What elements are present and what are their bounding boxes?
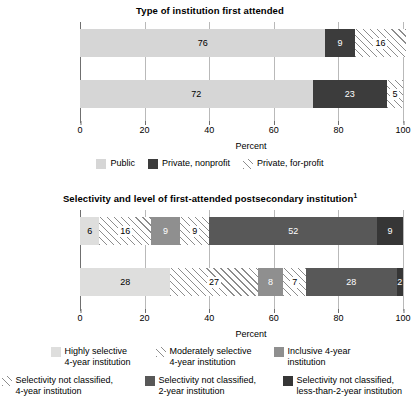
- top-legend-item-private-nonprofit: Private, nonprofit: [148, 158, 230, 169]
- top-x-axis-caption: Percent: [41, 141, 420, 151]
- bottom-segment-inclusive-row1: 9: [151, 217, 180, 245]
- top-chart-plot-area: First-generation college students 76 9 1…: [0, 22, 420, 123]
- bottom-value-inclusive-row2: 8: [268, 277, 273, 287]
- top-tick-60: 60: [269, 125, 279, 135]
- top-legend-item-private-forprofit: Private, for-profit: [243, 158, 324, 169]
- top-tick-100: 100: [395, 125, 410, 135]
- top-legend-label-private-nonprofit: Private, nonprofit: [162, 158, 230, 169]
- bottom-legend-row-2: Selectivity not classified, 4-year insti…: [0, 375, 420, 396]
- bottom-value-nc2-row2: 28: [346, 277, 356, 287]
- bottom-segment-nc-4year-row2: 7: [283, 268, 306, 296]
- chart-panel-selectivity-and-level: Selectivity and level of first-attended …: [0, 182, 420, 418]
- bottom-tick-20: 20: [140, 313, 150, 323]
- bottom-tick-100: 100: [395, 313, 410, 323]
- bottom-value-nc4-row2: 7: [290, 277, 299, 288]
- bottom-x-axis-ticks: 0 20 40 60 80 100: [0, 313, 420, 326]
- bottom-segment-inclusive-row2: 8: [258, 268, 284, 296]
- bottom-tick-80: 80: [333, 313, 343, 323]
- chart-panel-type-of-institution: Type of institution first attended First…: [0, 0, 420, 182]
- bottom-segment-moderately-selective-row2: 27: [170, 268, 257, 296]
- top-segment-nonprofit-row2: 23: [313, 80, 387, 108]
- bottom-legend-label-nc-4year: Selectivity not classified, 4-year insti…: [16, 375, 114, 396]
- top-tick-40: 40: [204, 125, 214, 135]
- bottom-x-axis-caption: Percent: [41, 329, 420, 339]
- nc-less2year-swatch: [283, 376, 293, 386]
- bottom-legend-item-moderately-selective: Moderately selective 4-year institution: [156, 346, 274, 367]
- bottom-tick-40: 40: [204, 313, 214, 323]
- highly-selective-swatch: [51, 347, 61, 357]
- top-legend-label-private-forprofit: Private, for-profit: [257, 158, 324, 169]
- bottom-value-ncless-row1: 9: [388, 226, 393, 236]
- top-bar-row-first-generation: First-generation college students 76 9 1…: [80, 29, 403, 57]
- bottom-value-nc4-row1: 9: [190, 226, 199, 237]
- bottom-value-highly-row2: 28: [120, 277, 130, 287]
- top-legend-item-public: Public: [96, 158, 135, 169]
- top-value-nonprofit-row1: 9: [337, 38, 342, 48]
- top-tick-0: 0: [77, 125, 82, 135]
- bottom-value-moderate-row1: 16: [118, 226, 132, 237]
- bottom-legend-label-nc-2year: Selectivity not classified, 2-year insti…: [159, 375, 257, 396]
- inclusive-4year-swatch: [274, 347, 284, 357]
- bottom-chart-legend: Highly selective 4-year institution Mode…: [0, 346, 420, 396]
- bottom-segment-nc-less2year-row2: 2: [397, 268, 403, 296]
- bottom-legend-item-nc-4year: Selectivity not classified, 4-year insti…: [2, 375, 145, 396]
- top-legend-label-public: Public: [110, 158, 135, 169]
- bottom-tick-0: 0: [77, 313, 82, 323]
- top-tick-80: 80: [333, 125, 343, 135]
- top-value-forprofit-row2: 5: [390, 89, 399, 100]
- bottom-legend-label-nc-less2year: Selectivity not classified, less-than-2-…: [297, 375, 403, 396]
- top-bar-row-continuing-generation: Continuing- generation college students …: [80, 80, 403, 108]
- bottom-value-moderate-row2: 27: [207, 277, 221, 288]
- bottom-legend-item-inclusive-4year: Inclusive 4-year institution: [274, 346, 370, 367]
- top-value-public-row2: 72: [191, 89, 201, 99]
- bottom-segment-nc-less2year-row1: 9: [377, 217, 403, 245]
- top-segment-forprofit-row1: 16: [355, 29, 407, 57]
- bottom-tick-60: 60: [269, 313, 279, 323]
- top-segment-nonprofit-row1: 9: [325, 29, 354, 57]
- bottom-chart-title: Selectivity and level of first-attended …: [0, 182, 420, 204]
- bottom-legend-label-moderately-selective: Moderately selective 4-year institution: [170, 346, 252, 367]
- top-value-forprofit-row1: 16: [373, 38, 387, 49]
- bottom-bar-row-continuing-generation: Continuing- generation college students …: [80, 268, 403, 296]
- bottom-legend-item-nc-less2year: Selectivity not classified, less-than-2-…: [283, 375, 419, 396]
- top-segment-public-row2: 72: [80, 80, 313, 108]
- bottom-segment-highly-selective-row2: 28: [80, 268, 170, 296]
- bottom-value-ncless-row2: 2: [397, 277, 402, 287]
- bottom-value-highly-row1: 6: [87, 226, 92, 236]
- top-segment-public-row1: 76: [80, 29, 325, 57]
- bottom-legend-item-highly-selective: Highly selective 4-year institution: [51, 346, 156, 367]
- bottom-chart-plot-area: First-generation college students 6 16 9…: [0, 210, 420, 311]
- top-value-nonprofit-row2: 23: [345, 89, 355, 99]
- bottom-segment-highly-selective-row1: 6: [80, 217, 99, 245]
- top-segment-forprofit-row2: 5: [387, 80, 403, 108]
- bottom-legend-item-nc-2year: Selectivity not classified, 2-year insti…: [145, 375, 283, 396]
- bottom-bar-row-first-generation: First-generation college students 6 16 9…: [80, 217, 403, 245]
- bottom-legend-row-1: Highly selective 4-year institution Mode…: [0, 346, 420, 367]
- top-chart-legend: Public Private, nonprofit Private, for-p…: [0, 158, 420, 169]
- nc-4year-swatch: [2, 376, 12, 386]
- bottom-segment-nc-4year-row1: 9: [180, 217, 209, 245]
- bottom-chart-title-text: Selectivity and level of first-attended …: [63, 193, 354, 204]
- bottom-chart-title-footnote-marker: 1: [353, 192, 357, 199]
- bottom-gridline-100: [403, 210, 404, 311]
- private-nonprofit-swatch: [148, 159, 158, 169]
- public-swatch: [96, 159, 106, 169]
- moderately-selective-swatch: [156, 347, 166, 357]
- top-x-axis-ticks: 0 20 40 60 80 100: [0, 125, 420, 138]
- top-value-public-row1: 76: [198, 38, 208, 48]
- bottom-legend-label-highly-selective: Highly selective 4-year institution: [65, 346, 131, 367]
- private-forprofit-swatch: [243, 159, 253, 169]
- bottom-value-nc2-row1: 52: [288, 226, 298, 236]
- bottom-segment-moderately-selective-row1: 16: [99, 217, 151, 245]
- bottom-value-inclusive-row1: 9: [163, 226, 168, 236]
- top-tick-20: 20: [140, 125, 150, 135]
- top-chart-title: Type of institution first attended: [0, 0, 420, 16]
- bottom-segment-nc-2year-row2: 28: [306, 268, 396, 296]
- nc-2year-swatch: [145, 376, 155, 386]
- bottom-segment-nc-2year-row1: 52: [209, 217, 377, 245]
- bottom-legend-label-inclusive-4year: Inclusive 4-year institution: [288, 346, 351, 367]
